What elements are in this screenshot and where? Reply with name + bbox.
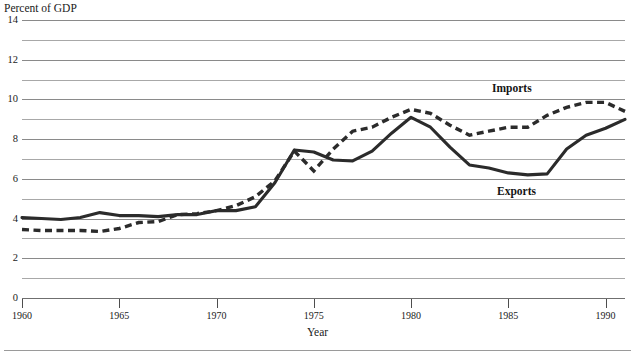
y-tick-label-6: 6 xyxy=(0,174,18,184)
x-tick-label-1975: 1975 xyxy=(294,310,334,321)
series-line-exports xyxy=(22,117,625,219)
y-tick-label-10: 10 xyxy=(0,94,18,104)
series-layer xyxy=(22,20,625,298)
y-tick-label-2: 2 xyxy=(0,253,18,263)
x-axis-line xyxy=(22,298,625,299)
x-tick-1965 xyxy=(119,299,120,308)
x-tick-1960 xyxy=(22,299,23,308)
x-tick-1985 xyxy=(508,299,509,308)
x-tick-label-1960: 1960 xyxy=(2,310,42,321)
x-tick-1970 xyxy=(217,299,218,308)
series-label-exports: Exports xyxy=(497,185,536,197)
x-tick-label-1970: 1970 xyxy=(197,310,237,321)
x-tick-label-1980: 1980 xyxy=(391,310,431,321)
y-tick-label-8: 8 xyxy=(0,134,18,144)
series-line-imports xyxy=(22,102,625,231)
x-tick-label-1990: 1990 xyxy=(586,310,626,321)
y-tick-label-4: 4 xyxy=(0,214,18,224)
x-tick-1990 xyxy=(606,299,607,308)
x-tick-1980 xyxy=(411,299,412,308)
bottom-rule xyxy=(4,350,631,351)
y-tick-label-0: 0 xyxy=(0,293,18,303)
x-axis-title: Year xyxy=(0,326,635,338)
x-tick-label-1985: 1985 xyxy=(488,310,528,321)
x-tick-1975 xyxy=(314,299,315,308)
y-tick-label-12: 12 xyxy=(0,55,18,65)
plot-area xyxy=(22,20,625,298)
x-tick-label-1965: 1965 xyxy=(99,310,139,321)
series-label-imports: Imports xyxy=(492,82,532,94)
y-axis-title: Percent of GDP xyxy=(4,1,77,15)
y-tick-label-14: 14 xyxy=(0,15,18,25)
chart-figure: Percent of GDP 02468101214 1960196519701… xyxy=(0,0,635,359)
